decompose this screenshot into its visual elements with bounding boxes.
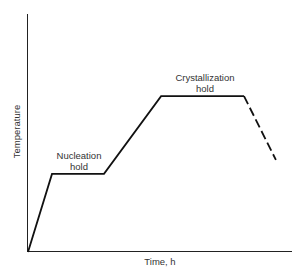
chart-plot-area [0, 0, 305, 275]
nucleation-hold-label: Nucleation hold [52, 150, 106, 172]
profile-solid-line [28, 96, 244, 252]
crystallization-label-line1: Crystallization [168, 72, 242, 83]
crystallization-hold-label: Crystallization hold [168, 72, 242, 94]
heat-treatment-chart: Temperature Time, h Nucleation hold Crys… [0, 0, 305, 275]
crystallization-label-line2: hold [168, 83, 242, 94]
nucleation-label-line2: hold [52, 161, 106, 172]
y-axis-label: Temperature [11, 100, 22, 164]
cooling-dashed-line [244, 96, 276, 160]
x-axis-label: Time, h [140, 256, 180, 267]
nucleation-label-line1: Nucleation [52, 150, 106, 161]
